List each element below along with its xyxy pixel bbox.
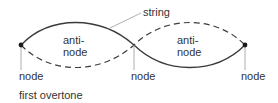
antinode-label-right-line2: node [177, 46, 201, 58]
node-dot-left [19, 43, 24, 48]
antinode-label-left-line1: anti- [63, 34, 85, 46]
string-dashed-curve [21, 23, 245, 68]
standing-wave-diagram: string anti- node anti- node node node n… [0, 0, 278, 103]
caption: first overtone [19, 89, 83, 101]
string-label: string [143, 6, 170, 18]
node-dot-right [243, 43, 248, 48]
node-label-right: node [241, 70, 265, 82]
antinode-label-left-line2: node [63, 46, 87, 58]
string-solid-curve [21, 23, 245, 68]
node-label-middle: node [131, 70, 155, 82]
string-leader-line [108, 13, 141, 29]
node-label-left: node [19, 70, 43, 82]
antinode-label-right-line1: anti- [177, 34, 199, 46]
